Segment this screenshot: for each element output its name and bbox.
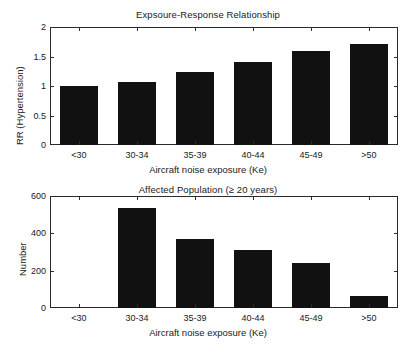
x-axis-label-affected-population: Aircraft noise exposure (Ke) <box>0 327 416 338</box>
x-tick-label: 45-49 <box>299 150 322 160</box>
y-tick-mark <box>50 116 54 117</box>
x-tick-mark <box>137 196 138 200</box>
x-tick-label: 35-39 <box>183 313 206 323</box>
bar <box>176 239 214 308</box>
plot-area-exposure-response <box>50 27 398 145</box>
y-tick-mark <box>50 271 54 272</box>
x-tick-mark <box>369 141 370 145</box>
x-tick-label: 40-44 <box>241 150 264 160</box>
y-tick-mark <box>50 233 54 234</box>
x-tick-label: 35-39 <box>183 150 206 160</box>
x-axis-label-exposure-response: Aircraft noise exposure (Ke) <box>0 164 416 175</box>
x-tick-mark <box>311 27 312 31</box>
bar <box>176 72 214 145</box>
x-tick-mark <box>137 141 138 145</box>
bar <box>350 44 388 145</box>
chart-panel-exposure-response: Expsoure-Response Relationship 00.511.52… <box>0 0 416 178</box>
chart-panel-affected-population: Affected Population (≥ 20 years) 0200400… <box>0 178 416 356</box>
y-tick-mark <box>50 57 54 58</box>
plot-area-affected-population <box>50 196 398 308</box>
x-tick-mark <box>79 141 80 145</box>
x-tick-mark <box>311 141 312 145</box>
y-tick-mark <box>394 86 398 87</box>
x-tick-mark <box>195 196 196 200</box>
y-axis-label-affected-population: Number <box>17 242 28 276</box>
x-tick-mark <box>137 304 138 308</box>
bar <box>118 208 156 308</box>
x-tick-label: <30 <box>71 150 86 160</box>
x-tick-mark <box>137 27 138 31</box>
y-tick-label: 1 <box>6 81 46 91</box>
chart-title-affected-population: Affected Population (≥ 20 years) <box>0 184 416 195</box>
x-tick-mark <box>79 196 80 200</box>
x-tick-label: 40-44 <box>241 313 264 323</box>
x-tick-label: >50 <box>361 313 376 323</box>
x-tick-mark <box>79 27 80 31</box>
x-tick-mark <box>311 196 312 200</box>
y-tick-label: 1.5 <box>6 52 46 62</box>
x-tick-mark <box>369 27 370 31</box>
x-tick-mark <box>253 141 254 145</box>
x-tick-mark <box>253 304 254 308</box>
y-tick-mark <box>394 116 398 117</box>
bar <box>234 250 272 308</box>
x-tick-mark <box>253 27 254 31</box>
x-tick-mark <box>369 304 370 308</box>
y-tick-label: 0 <box>6 303 46 313</box>
x-tick-mark <box>369 196 370 200</box>
y-tick-label: 600 <box>6 191 46 201</box>
x-tick-label: 30-34 <box>125 313 148 323</box>
x-tick-label: >50 <box>361 150 376 160</box>
y-tick-mark <box>394 57 398 58</box>
y-tick-label: 0.5 <box>6 111 46 121</box>
y-tick-mark <box>394 233 398 234</box>
y-tick-label: 2 <box>6 22 46 32</box>
x-tick-mark <box>79 304 80 308</box>
bar <box>292 51 330 145</box>
y-axis-label-exposure-response: RR (Hypertension) <box>14 66 25 145</box>
bar <box>60 86 98 145</box>
x-tick-label: <30 <box>71 313 86 323</box>
x-tick-label: 30-34 <box>125 150 148 160</box>
x-tick-label: 45-49 <box>299 313 322 323</box>
bar <box>234 62 272 145</box>
figure-canvas: Expsoure-Response Relationship 00.511.52… <box>0 0 416 356</box>
y-tick-label: 400 <box>6 228 46 238</box>
x-tick-mark <box>311 304 312 308</box>
x-tick-mark <box>195 141 196 145</box>
y-tick-mark <box>394 271 398 272</box>
bar <box>118 82 156 145</box>
y-tick-mark <box>50 86 54 87</box>
y-tick-label: 0 <box>6 140 46 150</box>
chart-title-exposure-response: Expsoure-Response Relationship <box>0 9 416 20</box>
x-tick-mark <box>195 304 196 308</box>
x-tick-mark <box>195 27 196 31</box>
bar <box>292 263 330 308</box>
x-tick-mark <box>253 196 254 200</box>
